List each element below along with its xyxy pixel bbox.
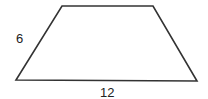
trapezoid-diagram: 6 12 — [0, 0, 208, 99]
base-label: 12 — [100, 85, 114, 99]
left-side-label: 6 — [16, 31, 23, 46]
trapezoid-shape — [16, 6, 197, 81]
